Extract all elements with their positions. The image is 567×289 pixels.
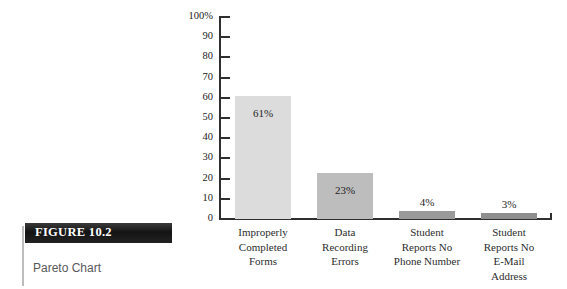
y-axis-tick (221, 178, 230, 180)
x-axis-end-tick (550, 213, 552, 220)
y-axis-tick (221, 198, 230, 200)
x-axis-category-label-line: E-Mail (464, 254, 554, 269)
x-axis-category-label-line: Reports No (382, 240, 472, 255)
x-axis-category-label: StudentReports NoE-MailAddress (464, 225, 554, 283)
x-axis-category-label-line: Completed (218, 240, 308, 255)
y-axis-tick-label: 20 (173, 172, 213, 183)
bar (399, 211, 455, 219)
y-axis-tick (221, 137, 230, 139)
caption-vertical-rule (22, 226, 24, 286)
bar (481, 213, 537, 219)
figure-number-label: FIGURE 10.2 (35, 225, 112, 240)
x-axis-category-label-line: Data (300, 225, 390, 240)
x-axis-category-label-line: Student (464, 225, 554, 240)
bar-value-label: 4% (387, 196, 467, 208)
y-axis-tick-label: 70 (173, 71, 213, 82)
y-axis-tick-label: 80 (173, 50, 213, 61)
y-axis-tick-label: 30 (173, 151, 213, 162)
x-axis-category-label-line: Forms (218, 254, 308, 269)
y-axis-tick-label: 10 (173, 192, 213, 203)
x-axis-category-label: StudentReports NoPhone Number (382, 225, 472, 269)
y-axis-tick (221, 157, 230, 159)
y-axis-tick-label: 40 (173, 131, 213, 142)
x-axis-category-label-line: Improperly (218, 225, 308, 240)
bar-value-label: 61% (223, 107, 303, 119)
y-axis-tick-label: 60 (173, 91, 213, 102)
y-axis-tick (221, 218, 230, 220)
x-axis-category-label-line: Phone Number (382, 254, 472, 269)
x-axis-category-label: ImproperlyCompletedForms (218, 225, 308, 269)
y-axis-tick-label: 90 (173, 30, 213, 41)
bar-value-label: 3% (469, 198, 549, 210)
x-axis-category-label-line: Address (464, 269, 554, 284)
y-axis-tick-label: 50 (173, 111, 213, 122)
y-axis-tick (221, 77, 230, 79)
bar (317, 173, 373, 219)
y-axis-tick (221, 36, 230, 38)
x-axis-category-label-line: Reports No (464, 240, 554, 255)
x-axis-category-label-line: Errors (300, 254, 390, 269)
y-axis-tick (221, 56, 230, 58)
bar-value-label: 23% (305, 184, 385, 196)
y-axis-tick (221, 16, 230, 18)
figure-caption: FIGURE 10.2 Pareto Chart (22, 222, 182, 286)
x-axis-category-label-line: Recording (300, 240, 390, 255)
figure-title-label: Pareto Chart (33, 261, 101, 275)
y-axis-tick-label: 100% (173, 10, 213, 21)
x-axis-category-label: DataRecordingErrors (300, 225, 390, 269)
x-axis-category-label-line: Student (382, 225, 472, 240)
y-axis-tick (221, 97, 230, 99)
